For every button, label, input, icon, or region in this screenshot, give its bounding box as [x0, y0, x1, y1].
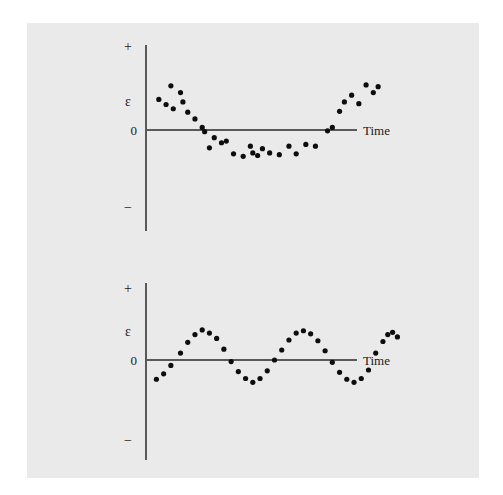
- data-point: [330, 125, 335, 130]
- figure-panel: + ε 0 − Time + ε 0 −: [27, 23, 479, 478]
- data-point: [161, 371, 166, 376]
- data-point: [294, 151, 299, 156]
- data-point: [371, 90, 376, 95]
- y-tick-zero: 0: [131, 353, 138, 368]
- y-tick-epsilon: ε: [125, 94, 131, 109]
- y-tick-plus: +: [124, 39, 132, 54]
- data-point: [337, 370, 342, 375]
- y-tick-plus: +: [124, 281, 132, 296]
- data-point: [243, 376, 248, 381]
- data-point: [231, 151, 236, 156]
- data-point: [286, 337, 291, 342]
- data-point: [171, 106, 176, 111]
- x-axis-label: Time: [363, 123, 390, 138]
- data-point: [229, 359, 234, 364]
- data-point: [200, 327, 205, 332]
- data-point: [349, 93, 354, 98]
- data-point: [325, 128, 330, 133]
- y-tick-minus: −: [124, 200, 132, 215]
- data-point: [154, 377, 159, 382]
- data-point: [241, 154, 246, 159]
- data-point: [294, 330, 299, 335]
- data-point: [156, 97, 161, 102]
- data-point: [366, 367, 371, 372]
- data-point: [356, 101, 361, 106]
- data-point: [308, 331, 313, 336]
- data-point: [248, 144, 253, 149]
- data-point: [255, 153, 260, 158]
- data-point: [359, 376, 364, 381]
- data-point: [192, 332, 197, 337]
- y-axis-tick-labels-top: + ε 0 −: [124, 39, 137, 215]
- figure-page: + ε 0 − Time + ε 0 −: [0, 0, 503, 495]
- data-point: [224, 138, 229, 143]
- data-point: [202, 129, 207, 134]
- data-point: [219, 140, 224, 145]
- data-point: [212, 135, 217, 140]
- data-point: [373, 350, 378, 355]
- data-point: [265, 368, 270, 373]
- data-point: [323, 348, 328, 353]
- y-tick-zero: 0: [131, 123, 138, 138]
- data-point: [395, 334, 400, 339]
- data-point-group: [156, 82, 381, 159]
- data-point: [257, 376, 262, 381]
- chart-cyclical-svg: + ε 0 − Time: [27, 260, 479, 478]
- data-point: [385, 332, 390, 337]
- data-point: [178, 90, 183, 95]
- data-point: [351, 380, 356, 385]
- data-point: [178, 350, 183, 355]
- data-point: [279, 347, 284, 352]
- data-point: [250, 150, 255, 155]
- data-point: [380, 339, 385, 344]
- data-point: [376, 84, 381, 89]
- data-point: [267, 150, 272, 155]
- data-point: [330, 360, 335, 365]
- chart-cyclical-residuals: + ε 0 − Time: [27, 260, 479, 478]
- data-point: [180, 99, 185, 104]
- data-point: [342, 99, 347, 104]
- data-point: [236, 369, 241, 374]
- data-point: [390, 330, 395, 335]
- data-point: [363, 82, 368, 87]
- data-point: [207, 330, 212, 335]
- data-point: [250, 380, 255, 385]
- y-tick-minus: −: [124, 433, 132, 448]
- data-point: [168, 363, 173, 368]
- data-point: [221, 347, 226, 352]
- data-point: [344, 377, 349, 382]
- y-axis-tick-labels-bottom: + ε 0 −: [124, 281, 137, 448]
- data-point: [337, 109, 342, 114]
- data-point: [286, 144, 291, 149]
- data-point: [185, 340, 190, 345]
- data-point: [192, 116, 197, 121]
- data-point: [313, 144, 318, 149]
- data-point: [214, 336, 219, 341]
- data-point: [185, 110, 190, 115]
- chart-quadratic-svg: + ε 0 − Time: [27, 23, 479, 253]
- data-point: [260, 146, 265, 151]
- data-point: [303, 142, 308, 147]
- y-tick-epsilon: ε: [125, 324, 131, 339]
- axes-bottom: [146, 283, 357, 460]
- data-point: [163, 102, 168, 107]
- axes-top: [146, 45, 357, 231]
- data-point: [272, 357, 277, 362]
- data-point: [277, 152, 282, 157]
- data-point: [301, 328, 306, 333]
- data-point: [207, 145, 212, 150]
- data-point: [168, 83, 173, 88]
- data-point: [315, 338, 320, 343]
